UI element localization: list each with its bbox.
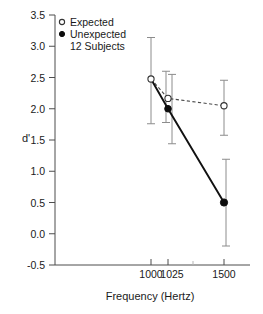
data-point-expected: [148, 76, 154, 82]
legend-note-subjects: 12 Subjects: [70, 40, 125, 52]
y-axis-ticks: [49, 15, 55, 265]
y-tick-label: 2.5: [30, 72, 45, 84]
data-point-unexpected: [220, 199, 227, 206]
y-tick-label: 0.5: [30, 197, 45, 209]
legend: Expected Unexpected 12 Subjects: [59, 16, 126, 52]
y-tick-label: 2.0: [30, 103, 45, 115]
data-points-expected: [148, 76, 227, 109]
x-tick-label: 1000: [139, 268, 163, 280]
line-chart: 3.5 3.0 2.5 2.0 1.5 1.0 0.5 0.0 -0.5 100…: [0, 0, 263, 314]
data-point-expected: [165, 95, 171, 101]
legend-marker-filled-circle-icon: [59, 31, 64, 36]
x-axis-title: Frequency (Hertz): [106, 290, 195, 302]
x-tick-label: 1500: [212, 268, 236, 280]
y-tick-label: 1.0: [30, 165, 45, 177]
y-tick-label: -0.5: [27, 259, 45, 271]
legend-label-unexpected: Unexpected: [70, 28, 126, 40]
x-axis-ticks: [151, 259, 224, 265]
series-line-expected: [151, 79, 224, 106]
y-axis-title: d': [22, 132, 30, 144]
y-tick-label: 0.0: [30, 228, 45, 240]
y-tick-label: 1.5: [30, 134, 45, 146]
series-line-unexpected: [151, 79, 224, 203]
error-bars-expected: [147, 38, 228, 136]
y-tick-label: 3.5: [30, 9, 45, 21]
data-point-expected: [221, 103, 227, 109]
x-tick-label: 1025: [160, 268, 184, 280]
data-point-unexpected: [165, 105, 172, 112]
legend-label-expected: Expected: [70, 16, 114, 28]
chart-figure: 3.5 3.0 2.5 2.0 1.5 1.0 0.5 0.0 -0.5 100…: [0, 0, 263, 314]
x-axis-tick-labels: 1000 1025 1500: [139, 268, 236, 280]
legend-marker-open-circle-icon: [59, 19, 64, 24]
y-tick-label: 3.0: [30, 40, 45, 52]
